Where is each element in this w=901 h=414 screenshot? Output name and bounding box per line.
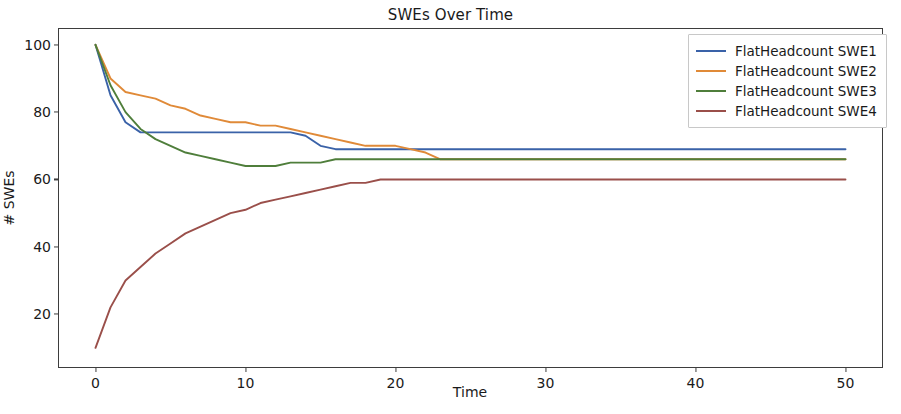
legend-item-label: FlatHeadcount SWE4 [735,103,877,119]
y-tick-label: 80 [33,104,51,120]
legend-color-swatch [696,90,726,92]
legend-item-label: FlatHeadcount SWE2 [735,63,877,79]
legend-color-swatch [696,110,726,112]
x-tick-label: 20 [387,375,405,391]
x-tick-mark [95,368,96,372]
legend-item-label: FlatHeadcount SWE1 [735,43,877,59]
y-tick-label: 60 [33,171,51,187]
chart-figure: SWEs Over Time # SWEs Time 20406080100 0… [0,0,901,414]
legend-item[interactable]: FlatHeadcount SWE1 [696,41,877,61]
x-tick-mark [245,368,246,372]
x-axis-label: Time [453,384,487,400]
x-tick-label: 40 [687,375,705,391]
legend-item[interactable]: FlatHeadcount SWE2 [696,61,877,81]
y-tick-label: 40 [33,239,51,255]
legend-color-swatch [696,50,726,52]
y-tick-label: 100 [24,37,51,53]
legend-color-swatch [696,70,726,72]
y-tick-label: 20 [33,306,51,322]
x-tick-mark [695,368,696,372]
x-tick-mark [545,368,546,372]
x-tick-mark [845,368,846,372]
chart-title: SWEs Over Time [0,6,901,24]
series-line-4 [96,179,846,347]
chart-legend: FlatHeadcount SWE1FlatHeadcount SWE2Flat… [688,34,887,128]
x-tick-label: 10 [237,375,255,391]
x-tick-mark [395,368,396,372]
y-axis-label: # SWEs [1,170,17,225]
x-tick-label: 30 [537,375,555,391]
x-tick-label: 50 [837,375,855,391]
x-tick-label: 0 [91,375,100,391]
legend-item-label: FlatHeadcount SWE3 [735,83,877,99]
legend-item[interactable]: FlatHeadcount SWE4 [696,101,877,121]
legend-item[interactable]: FlatHeadcount SWE3 [696,81,877,101]
